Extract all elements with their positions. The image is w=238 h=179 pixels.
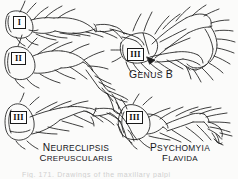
caption-genus-b-rest: ENUS xyxy=(137,70,165,80)
caption-neureclipsis-genus-rest: EURECLIPSIS xyxy=(50,143,109,153)
plate-footer-caption: Fig. 171. Drawings of the maxillary palp… xyxy=(22,171,218,178)
caption-psychomyia-genus-dropcap: P xyxy=(150,142,157,153)
segment-label-III-neureclipsis: III xyxy=(10,111,27,124)
illustration-plate: I II III III III GENUS B NEURECLIPSIS CR… xyxy=(0,0,238,179)
caption-psychomyia-genus: PSYCHOMYIA xyxy=(134,142,226,153)
caption-neureclipsis-species-rest: REPUSCULARIS xyxy=(47,154,113,163)
caption-neureclipsis-species: CREPUSCULARIS xyxy=(28,153,124,164)
segment-label-III-genus-b: III xyxy=(127,48,144,61)
segment-label-II: II xyxy=(11,52,26,65)
caption-psychomyia-species: FLAVIDA xyxy=(134,153,226,164)
segment-label-III-psychomyia: III xyxy=(126,111,143,124)
caption-neureclipsis-species-dropcap: C xyxy=(39,152,46,163)
caption-psychomyia: PSYCHOMYIA FLAVIDA xyxy=(134,142,226,164)
caption-genus-b-letter: B xyxy=(166,69,173,80)
caption-neureclipsis: NEURECLIPSIS CREPUSCULARIS xyxy=(28,142,124,164)
caption-psychomyia-species-rest: LAVIDA xyxy=(168,154,198,163)
segment-label-I: I xyxy=(13,16,26,29)
caption-genus-b: GENUS B xyxy=(129,69,173,80)
